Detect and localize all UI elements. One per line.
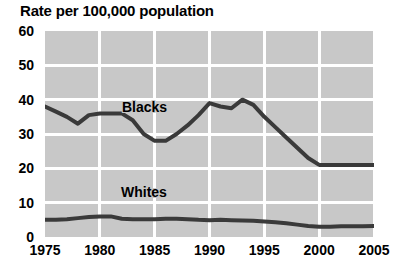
- series-line-whites: [45, 216, 374, 226]
- series-layer: [45, 31, 374, 237]
- x-tick-label: 1990: [184, 243, 236, 257]
- y-tick-label: 60: [0, 24, 34, 38]
- chart-container: Rate per 100,000 population 605040302010…: [0, 0, 401, 270]
- y-tick-label: 40: [0, 93, 34, 107]
- chart-title: Rate per 100,000 population: [20, 2, 214, 19]
- x-tick-label: 2000: [293, 243, 345, 257]
- plot-area: [45, 31, 374, 237]
- x-tick-label: 1985: [129, 243, 181, 257]
- x-tick-label: 1980: [74, 243, 126, 257]
- x-tick-label: 1975: [19, 243, 71, 257]
- series-label-whites: Whites: [121, 184, 167, 200]
- y-tick-label: 50: [0, 58, 34, 72]
- series-label-blacks: Blacks: [122, 99, 167, 115]
- y-tick-label: 20: [0, 161, 34, 175]
- y-tick-label: 10: [0, 196, 34, 210]
- y-tick-label: 30: [0, 127, 34, 141]
- series-line-blacks: [45, 100, 374, 165]
- x-tick-label: 1995: [238, 243, 290, 257]
- x-tick-label: 2005: [348, 243, 400, 257]
